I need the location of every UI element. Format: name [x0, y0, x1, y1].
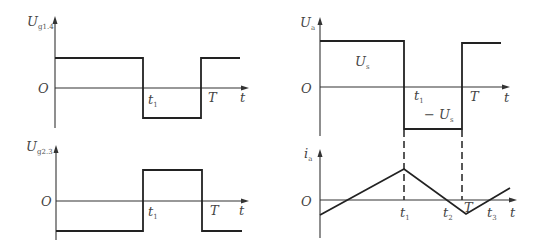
output-voltage-ua [320, 41, 501, 129]
tick-t1: t1 [400, 205, 410, 222]
origin-label: O [38, 81, 49, 96]
inverter-waveform-diagram: Ug1.4 O t1 T t Ug2.3 O t1 T t Ua O Us − … [0, 0, 541, 248]
output-current-ia [320, 169, 510, 215]
panel-ia: ia O t1 t2 T t3 t [301, 130, 517, 238]
y-axis-label: Ug2.3 [26, 139, 53, 156]
panel-ug14: Ug1.4 O t1 T t [27, 14, 249, 128]
tick-T: T [464, 200, 474, 215]
level-high-label: Us [355, 54, 370, 71]
tick-T: T [208, 90, 218, 105]
tick-t3: t3 [487, 205, 497, 222]
level-low-label: − Us [424, 107, 454, 124]
tick-t1: t1 [148, 204, 158, 221]
tick-T: T [210, 203, 220, 218]
x-axis-label: t [504, 90, 510, 105]
tick-T: T [470, 89, 480, 104]
y-axis-label: ia [304, 146, 312, 163]
x-axis-label: t [510, 205, 516, 220]
y-axis-label: Ua [300, 15, 315, 32]
tick-t2: t2 [443, 205, 453, 222]
y-axis-arrow-icon [318, 149, 323, 157]
x-axis-label: t [240, 90, 246, 105]
origin-label: O [41, 194, 52, 209]
tick-t1: t1 [148, 92, 158, 109]
origin-label: O [301, 194, 312, 209]
y-axis-arrow-icon [54, 145, 59, 153]
x-axis-label: t [239, 203, 245, 218]
y-axis-arrow-icon [318, 17, 323, 25]
tick-t1: t1 [414, 88, 424, 105]
x-axis-arrow-icon [509, 198, 517, 203]
panel-ug23: Ug2.3 O t1 T t [26, 139, 249, 240]
origin-label: O [301, 81, 312, 96]
x-axis-arrow-icon [502, 85, 510, 90]
panel-ua: Ua O Us − Us t1 T t [300, 15, 510, 136]
y-axis-label: Ug1.4 [27, 14, 54, 31]
